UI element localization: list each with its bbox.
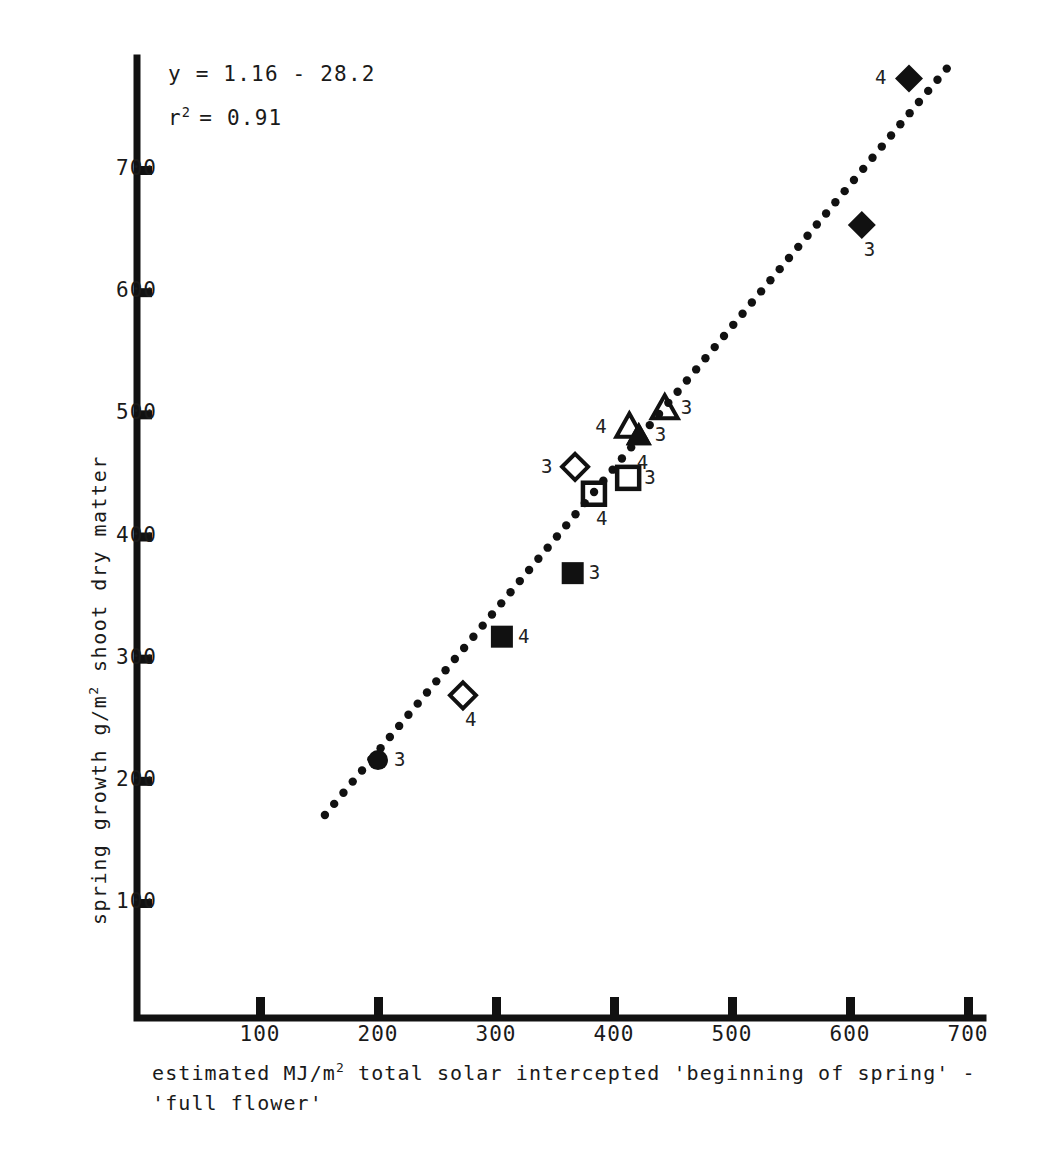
data-point-filled-square <box>562 562 584 584</box>
data-point-count-label: 4 <box>518 625 529 647</box>
y-tick-label: 100 <box>45 889 157 913</box>
x-axis-title: estimated MJ/m2 total solar intercepted … <box>152 1053 992 1118</box>
data-point-count-label: 4 <box>596 507 607 529</box>
y-tick-label: 200 <box>45 767 157 791</box>
data-point-filled-circle <box>368 750 388 770</box>
x-tick-label: 200 <box>338 1022 418 1046</box>
data-point-count-label: 3 <box>541 455 552 477</box>
r-squared-exponent: 2 <box>182 104 191 120</box>
data-point-filled-square <box>491 626 513 648</box>
x-axis-title-line2: 'full flower' <box>152 1091 323 1115</box>
x-tick-label: 700 <box>928 1022 1008 1046</box>
r-squared-annotation: r2= 0.91 <box>168 104 282 130</box>
y-tick-label: 500 <box>45 400 157 424</box>
data-point-count-label: 3 <box>394 748 405 770</box>
data-point-count-label: 4 <box>595 415 606 437</box>
x-tick-label: 300 <box>456 1022 536 1046</box>
r-squared-value: = 0.91 <box>191 106 282 130</box>
data-point-open-diamond <box>450 682 476 708</box>
data-point-open-diamond <box>562 454 588 480</box>
data-point-count-label: 3 <box>864 238 875 260</box>
y-tick-label: 400 <box>45 523 157 547</box>
x-axis-title-part1: estimated MJ/m <box>152 1061 336 1085</box>
data-point-filled-diamond <box>895 64 923 92</box>
data-point-count-label: 3 <box>655 423 666 445</box>
x-tick-label: 100 <box>220 1022 300 1046</box>
data-point-count-label: 4 <box>875 66 886 88</box>
y-tick-label: 300 <box>45 645 157 669</box>
data-point-filled-diamond <box>848 211 876 239</box>
y-tick-label: 600 <box>45 278 157 302</box>
data-point-count-label: 4 <box>637 451 648 473</box>
data-point-count-label: 3 <box>681 396 692 418</box>
r-squared-symbol: r <box>168 106 182 130</box>
fit-equation-annotation: y = 1.16 - 28.2 <box>168 62 376 86</box>
data-point-open-triangle <box>652 395 678 418</box>
x-axis-title-exponent: 2 <box>336 1060 345 1075</box>
x-tick-label: 600 <box>810 1022 890 1046</box>
x-tick-label: 400 <box>574 1022 654 1046</box>
data-points <box>368 64 923 770</box>
data-point-count-label: 3 <box>589 561 600 583</box>
x-tick-label: 500 <box>692 1022 772 1046</box>
x-axis-title-part2: total solar intercepted 'beginning of sp… <box>345 1061 976 1085</box>
y-axis-title-exponent: 2 <box>86 685 101 694</box>
data-point-count-label: 4 <box>465 708 476 730</box>
y-tick-label: 700 <box>45 156 157 180</box>
